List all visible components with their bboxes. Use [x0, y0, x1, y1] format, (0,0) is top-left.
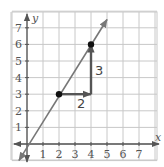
rise-label: 3 [95, 63, 103, 78]
x-tick-label: 2 [56, 148, 63, 161]
axes [14, 14, 159, 162]
coordinate-graph: 12345671234567 x y 2 3 [0, 0, 164, 167]
x-tick-label: 1 [40, 148, 47, 161]
run-label: 2 [77, 96, 85, 111]
line-y-equals-1.5x [19, 20, 107, 161]
data-point [88, 41, 94, 47]
x-tick-label: 5 [104, 148, 111, 161]
data-point [56, 91, 62, 97]
x-tick-label: 7 [136, 148, 143, 161]
graph-canvas: 12345671234567 x y 2 3 [0, 0, 164, 167]
x-tick-label: 4 [88, 148, 95, 161]
x-axis-label: x [155, 131, 162, 144]
y-tick-label: 3 [15, 88, 22, 101]
y-axis-label: y [31, 12, 39, 25]
data-line [19, 20, 107, 161]
y-tick-label: 4 [15, 72, 22, 85]
y-tick-label: 5 [15, 55, 22, 68]
x-tick-label: 3 [72, 148, 79, 161]
x-tick-label: 6 [120, 148, 127, 161]
y-tick-label: 7 [15, 22, 22, 35]
y-tick-label: 6 [15, 38, 22, 51]
y-tick-label: 1 [15, 121, 22, 134]
y-tick-label: 2 [15, 105, 22, 118]
